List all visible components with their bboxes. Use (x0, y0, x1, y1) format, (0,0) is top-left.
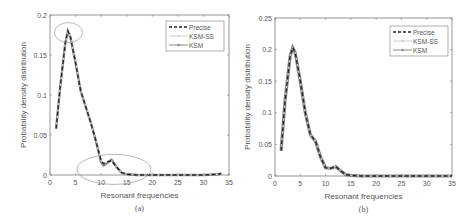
y-tick-label: 0 (43, 172, 47, 179)
x-tick-label: 10 (97, 179, 105, 186)
series-precise-line (56, 31, 221, 175)
x-tick-label: 5 (74, 179, 78, 186)
y-tick-label: 0.15 (258, 78, 272, 85)
x-tick-label: 20 (148, 179, 156, 186)
x-tick-label: 15 (347, 180, 355, 187)
legend-precise-label: Precise (413, 29, 435, 36)
panel-caption: (a) (135, 204, 144, 213)
x-tick-label: 25 (174, 179, 182, 186)
x-tick-label: 30 (423, 180, 431, 187)
chart-panel-a: 0510152025303500.050.10.150.2Resonant fr… (0, 0, 240, 222)
y-tick-label: 0.1 (37, 92, 47, 99)
panel-caption: (b) (359, 205, 369, 214)
x-tick-label: 0 (48, 179, 52, 186)
chart-a: 0510152025303500.050.10.150.2Resonant fr… (0, 0, 240, 222)
y-tick-label: 0.1 (262, 109, 272, 116)
x-tick-label: 25 (398, 180, 406, 187)
x-tick-label: 0 (273, 180, 277, 187)
series-ksm-ss-line (56, 31, 221, 175)
chart-b: 0510152025303500.050.10.150.20.25Resonan… (240, 0, 476, 222)
y-tick-label: 0.05 (258, 141, 272, 148)
legend-precise-label: Precise (189, 24, 211, 31)
x-tick-label: 5 (298, 180, 302, 187)
y-tick-label: 0 (268, 173, 272, 180)
x-tick-label: 15 (123, 179, 131, 186)
x-axis-label: Resonant frequencies (325, 192, 403, 201)
annotation-ellipse-tail (77, 154, 151, 184)
series-ksm-line (281, 48, 452, 176)
x-tick-label: 20 (372, 180, 380, 187)
legend-ksm-ss-marker (402, 40, 404, 42)
x-tick-label: 35 (225, 179, 233, 186)
x-tick-label: 10 (322, 180, 330, 187)
y-axis-label: Probability density distribution (19, 42, 28, 148)
chart-panel-b: 0510152025303500.050.10.150.20.25Resonan… (240, 0, 476, 222)
x-axis-label: Resonant frequencies (101, 191, 179, 200)
x-tick-label: 30 (200, 179, 208, 186)
legend-ksm-marker (401, 49, 403, 51)
x-tick-label: 35 (448, 180, 456, 187)
legend-ksm-label: KSM (413, 47, 427, 54)
series-ksm-line (56, 31, 221, 175)
y-tick-label: 0.25 (258, 15, 272, 22)
y-tick-label: 0.05 (33, 132, 47, 139)
y-axis-label: Probability density distribution (243, 44, 252, 150)
y-tick-label: 0.2 (37, 12, 47, 19)
legend-ksm-ss-label: KSM-SS (413, 38, 439, 45)
legend-ksm-marker (177, 44, 179, 46)
legend-ksm-label: KSM (189, 42, 203, 49)
legend-ksm-ss-marker (178, 35, 180, 37)
y-tick-label: 0.15 (33, 52, 47, 59)
y-tick-label: 0.2 (262, 46, 272, 53)
legend-ksm-ss-label: KSM-SS (189, 33, 215, 40)
